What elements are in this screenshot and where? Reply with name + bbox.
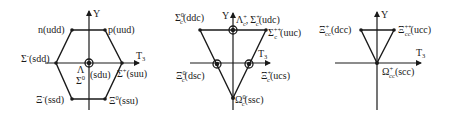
label-sigma-zero: Σ0 [76,74,85,86]
label-sigma-c-zero: Σ0c(ddc) [175,11,204,25]
label-sigma-minus: Σ-(sdd) [21,52,50,65]
t3-axis-label: T3 [136,50,145,62]
y-axis-label: Y [381,9,388,20]
diagram-light-baryon-octet: Y T3 n(udd) p(uud) Σ-(sdd) Σ+(suu) Λ Σ0 … [21,8,147,110]
label-n: n(udd) [38,24,65,36]
state-dot-xi-cc-plus [359,28,363,32]
y-axis-label: Y [93,8,100,19]
label-omega-c-zero: Ω0c(ssc) [235,93,263,107]
state-dot-sigma-minus [54,61,58,65]
state-dot-sigma-plus [120,61,124,65]
t3-axis-label: T3 [416,47,425,59]
state-dot-xi-cc-plusplus [392,28,396,32]
label-p: p(uud) [108,24,135,36]
diagram-doubly-charmed-baryons: Y T3 Ξ+cc(dcc) Ξ++cc(ucc) Ω+cc(scc) [319,9,431,110]
label-xi-cc-plus: Ξ+cc(dcc) [319,23,351,37]
state-dot-n [70,28,74,32]
state-dot-xi-minus [70,97,74,101]
state-dot-center [87,61,91,65]
label-xi-cc-plusplus: Ξ++cc(ucc) [398,23,431,37]
label-xi-c-plus: Ξ+c(ucs) [261,69,290,83]
baryon-multiplet-figure: Y T3 n(udd) p(uud) Σ-(sdd) Σ+(suu) Λ Σ0 … [0,0,455,120]
state-dot-omega-cc-plus [375,61,379,65]
state-dot-xi-c-plus [247,62,251,66]
state-dot-xi-zero [103,97,107,101]
label-sdu: (sdu) [90,69,111,81]
label-lambda-c-sigma-c: Λ+c,Σ+c(udc) [236,13,280,27]
label-sigma-plus: Σ+(suu) [117,67,147,80]
state-dot-p [103,28,107,32]
label-xi-c-zero: Ξ0c(dsc) [176,69,205,83]
y-axis-label: Y [222,10,229,21]
diagram-charmed-baryons: Y T3 Σ0c(ddc) Λ+c,Σ+c(udc) Σ++c(uuc) Ξ0c… [175,10,301,110]
state-dot-xi-c-zero [215,62,219,66]
state-dot-sigma-c-zero [198,28,202,32]
state-dot-top-center [231,28,235,32]
label-xi-minus: Ξ-(ssd) [36,93,64,106]
label-sigma-c-plusplus: Σ++c(uuc) [268,26,301,40]
label-xi-zero: Ξ0(ssu) [109,94,138,107]
label-omega-cc-plus: Ω+cc(scc) [382,65,414,79]
t3-axis-label: T3 [258,48,267,60]
